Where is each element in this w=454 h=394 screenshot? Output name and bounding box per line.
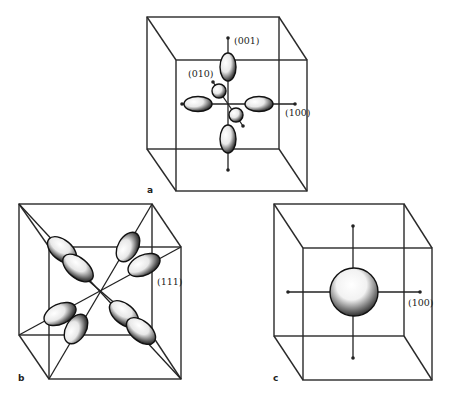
panel-label-c: c <box>273 373 278 383</box>
label-100: (100) <box>285 107 311 118</box>
crystal-orbital-diagram: (001) (010) (100) a <box>0 0 454 394</box>
panel-b: (111) b <box>18 204 183 383</box>
panel-label-b: b <box>18 373 25 383</box>
sphere-c <box>330 268 378 316</box>
body-diagonals-b <box>19 204 181 379</box>
panel-c: (100) c <box>273 204 434 383</box>
panel-label-a: a <box>147 185 153 195</box>
label-100-c: (100) <box>408 297 434 308</box>
label-111: (111) <box>157 276 183 287</box>
label-001: (001) <box>234 35 260 46</box>
label-010: (010) <box>188 68 214 79</box>
panel-a: (001) (010) (100) a <box>147 17 311 195</box>
